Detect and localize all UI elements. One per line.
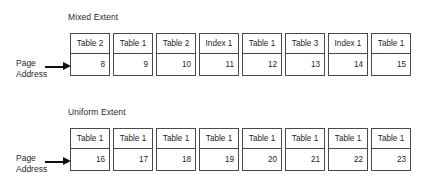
page-object-name: Table 1	[243, 34, 281, 54]
page-object-name: Table 1	[372, 129, 410, 149]
page-object-name: Index 1	[329, 34, 367, 54]
page-object-name: Table 1	[157, 129, 195, 149]
page-address-value: 16	[71, 149, 109, 170]
page-address-value: 12	[243, 54, 281, 75]
page-box: Table 1 23	[371, 128, 411, 171]
page-address-value: 19	[200, 149, 238, 170]
page-address-value: 17	[114, 149, 152, 170]
diagram-title: Uniform Extent	[68, 107, 126, 118]
page-object-name: Table 2	[71, 34, 109, 54]
page-box: Table 2 8	[70, 33, 110, 76]
page-object-name: Table 3	[286, 34, 324, 54]
page-box: Table 1 21	[285, 128, 325, 171]
page-address-value: 20	[243, 149, 281, 170]
arrow-right-icon	[45, 62, 71, 71]
arrow-right-icon	[45, 157, 71, 166]
diagram-title: Mixed Extent	[68, 12, 118, 23]
page-address-value: 8	[71, 54, 109, 75]
page-box: Table 1 17	[113, 128, 153, 171]
arrow-shaft	[45, 66, 64, 68]
page-box: Table 1 18	[156, 128, 196, 171]
page-address-value: 21	[286, 149, 324, 170]
page-address-value: 13	[286, 54, 324, 75]
page-address-value: 15	[372, 54, 410, 75]
page-box: Table 3 13	[285, 33, 325, 76]
page-box: Table 1 15	[371, 33, 411, 76]
page-object-name: Table 1	[114, 129, 152, 149]
page-object-name: Table 1	[329, 129, 367, 149]
page-box: Table 1 20	[242, 128, 282, 171]
extent-page-list: Table 1 16 Table 1 17 Table 1 18 Table 1…	[70, 128, 411, 171]
page-box: Table 1 22	[328, 128, 368, 171]
page-address-value: 14	[329, 54, 367, 75]
page-address-value: 10	[157, 54, 195, 75]
page-object-name: Table 1	[71, 129, 109, 149]
page-box: Table 2 10	[156, 33, 196, 76]
page-box: Index 1 14	[328, 33, 368, 76]
page-object-name: Table 2	[157, 34, 195, 54]
page-box: Table 1 19	[199, 128, 239, 171]
page-box: Table 1 9	[113, 33, 153, 76]
page-object-name: Table 1	[243, 129, 281, 149]
page-object-name: Table 1	[286, 129, 324, 149]
arrow-shaft	[45, 161, 64, 163]
page-box: Table 1 12	[242, 33, 282, 76]
page-address-value: 23	[372, 149, 410, 170]
extent-page-list: Table 2 8 Table 1 9 Table 2 10 Index 1 1…	[70, 33, 411, 76]
page-address-value: 18	[157, 149, 195, 170]
page-box: Table 1 16	[70, 128, 110, 171]
page-box: Index 1 11	[199, 33, 239, 76]
page-address-value: 9	[114, 54, 152, 75]
page-address-value: 22	[329, 149, 367, 170]
page-object-name: Table 1	[372, 34, 410, 54]
page-object-name: Table 1	[114, 34, 152, 54]
page-object-name: Index 1	[200, 34, 238, 54]
page-address-value: 11	[200, 54, 238, 75]
page-object-name: Table 1	[200, 129, 238, 149]
